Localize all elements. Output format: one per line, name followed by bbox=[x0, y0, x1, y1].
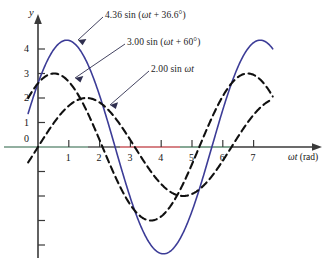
xtick-label-6: 6 bbox=[220, 153, 225, 163]
annotation-3-00-head: 3.00 sin ( bbox=[127, 37, 164, 47]
ytick-label-0: 0 bbox=[24, 134, 29, 144]
ytick-label-1: 1 bbox=[24, 118, 29, 128]
annotation-4-36-head: 4.36 sin ( bbox=[105, 10, 142, 20]
figure-sinusoid-sum: 4 3 2 1 0 1 2 3 4 5 6 7 y ωt (rad) 4.36 … bbox=[0, 0, 334, 277]
xtick-label-4: 4 bbox=[158, 153, 163, 163]
xtick-label-2: 2 bbox=[97, 153, 102, 163]
xtick-label-1: 1 bbox=[66, 153, 71, 163]
annotation-3-00-arg: ωt bbox=[164, 37, 174, 47]
annotation-4-36-arg: ωt bbox=[142, 10, 152, 20]
annotation-curve-2-00: 2.00 sin ωt bbox=[151, 65, 194, 75]
annotation-leaders bbox=[75, 17, 149, 109]
y-axis bbox=[34, 14, 42, 258]
annotation-2-00-arg: ωt bbox=[184, 64, 194, 74]
x-axis-symbol: ωt bbox=[288, 152, 297, 162]
annotation-curve-3-00: 3.00 sin (ωt + 60°) bbox=[127, 38, 200, 48]
y-axis-title: y bbox=[29, 8, 34, 19]
xtick-label-5: 5 bbox=[189, 153, 194, 163]
x-ticks bbox=[69, 140, 254, 147]
x-axis-unit: (rad) bbox=[297, 152, 318, 162]
xtick-label-7: 7 bbox=[251, 153, 256, 163]
xtick-label-3: 3 bbox=[127, 153, 132, 163]
ytick-label-2: 2 bbox=[24, 93, 29, 103]
x-axis-title: ωt (rad) bbox=[288, 153, 318, 163]
ytick-label-4: 4 bbox=[24, 44, 29, 54]
annotation-curve-4-36: 4.36 sin (ωt + 36.6°) bbox=[105, 11, 186, 21]
annotation-2-00-head: 2.00 sin bbox=[151, 64, 184, 74]
ytick-label-3: 3 bbox=[24, 69, 29, 79]
annotation-3-00-tail: + 60°) bbox=[173, 37, 200, 47]
x-axis bbox=[4, 143, 322, 151]
annotation-4-36-tail: + 36.6°) bbox=[151, 10, 186, 20]
